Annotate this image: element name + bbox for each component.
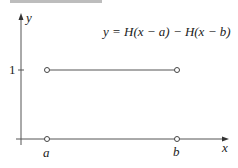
y-tick-label-1: 1 — [9, 63, 16, 76]
x-tick-label-a: a — [43, 146, 50, 159]
open-circle-a-top — [45, 68, 50, 73]
equation-label: y = H(x − a) − H(x − b) — [103, 24, 231, 40]
x-axis-label: x — [222, 141, 228, 154]
open-circle-b-top — [175, 68, 180, 73]
x-tick-label-b: b — [173, 145, 180, 158]
open-circle-b-bottom — [175, 137, 180, 142]
y-axis-arrow-icon — [19, 13, 24, 20]
y-axis-label: y — [26, 11, 32, 24]
open-circle-a-bottom — [45, 137, 50, 142]
